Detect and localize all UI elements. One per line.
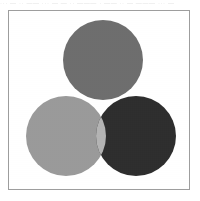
scan-artifact-text: ··· — ·· —— ··· — — ·· ——— · —— ·· — ———…: [0, 0, 200, 7]
venn-circle-bottom-left: [26, 96, 106, 176]
figure-frame: [8, 10, 190, 190]
venn-circle-bottom-right: [96, 96, 176, 176]
venn-svg: [9, 11, 189, 189]
screenshot-root: ··· — ·· —— ··· — — ·· ——— · —— ·· — ———…: [0, 0, 200, 201]
venn-circle-top: [63, 20, 143, 100]
venn-diagram: [9, 11, 189, 189]
